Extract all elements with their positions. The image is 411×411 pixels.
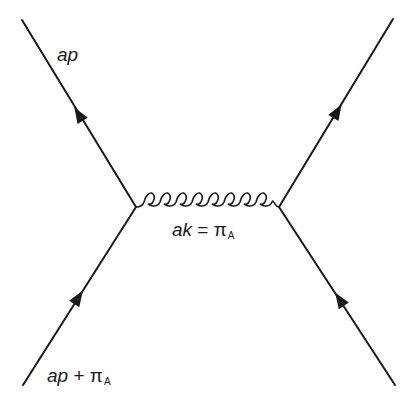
label-outgoing-momentum: ap xyxy=(57,45,78,64)
label-gluon-sub: A xyxy=(228,230,235,241)
gluon-propagator xyxy=(136,193,279,207)
label-incoming-momentum: ap + πA xyxy=(47,366,111,387)
label-gluon-op: = π xyxy=(192,219,227,240)
arrow-icon-bottom-left xyxy=(69,287,88,307)
label-incoming-main: ap xyxy=(47,365,68,386)
label-gluon-momentum: ak = πA xyxy=(172,220,235,241)
arrow-icon-top-right xyxy=(328,101,347,121)
label-gluon-main: ak xyxy=(172,219,192,240)
arrow-icon-bottom-right xyxy=(330,289,349,309)
label-incoming-sub: A xyxy=(104,376,111,387)
label-incoming-op: + π xyxy=(68,365,103,386)
label-outgoing-main: ap xyxy=(57,44,78,65)
arrow-icon-top-left xyxy=(69,104,88,124)
